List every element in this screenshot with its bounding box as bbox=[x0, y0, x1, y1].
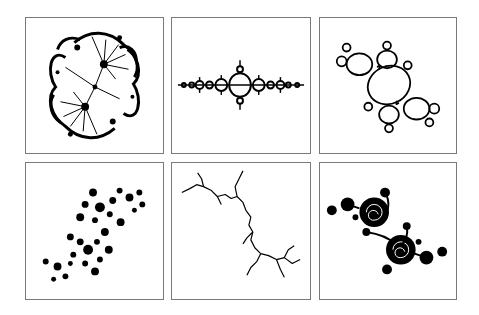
fractal-panel-3 bbox=[319, 17, 457, 154]
fractal-panel-2 bbox=[171, 17, 311, 154]
fractal-panel-6 bbox=[319, 162, 457, 300]
fractal-panel-1 bbox=[25, 17, 164, 154]
fractal-panel-4 bbox=[25, 162, 164, 300]
fractal-panel-5 bbox=[171, 162, 311, 300]
spiral-julia-set-image bbox=[320, 163, 456, 299]
dendrite-julia-set-image bbox=[172, 163, 310, 299]
filled-julia-set-image bbox=[26, 18, 163, 153]
basilica-julia-set-image bbox=[172, 18, 310, 153]
rabbit-julia-set-image bbox=[320, 18, 456, 153]
fatou-dust-julia-set-image bbox=[26, 163, 163, 299]
